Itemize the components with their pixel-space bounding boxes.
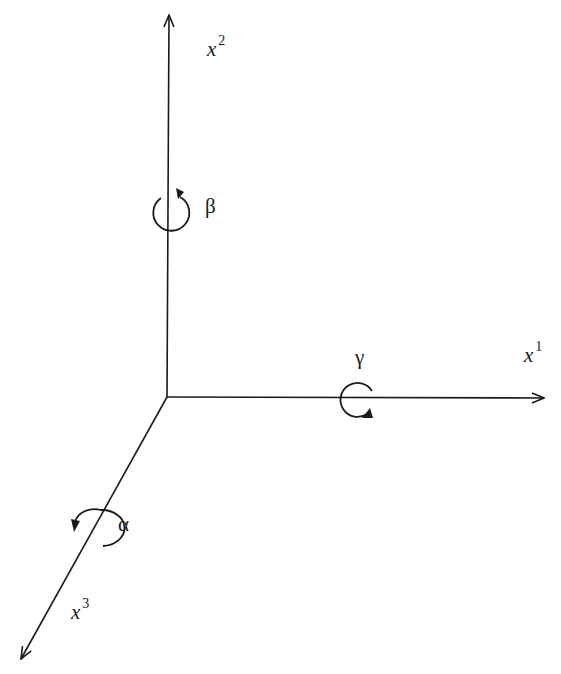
x1-label-index: 1 [535,339,542,354]
x2-axis-label: x2 [207,37,225,60]
x1-label-base: x [524,343,533,367]
gamma-rotation-icon [341,383,373,418]
beta-rotation-icon [153,188,189,231]
x3-label-index: 3 [82,596,89,611]
x3-axis-label: x3 [71,600,89,623]
x2-axis [167,15,169,397]
x1-axis [167,397,544,398]
x1-axis-label: x1 [524,343,542,366]
alpha-rotation-icon [71,509,125,546]
gamma-label: γ [355,347,364,368]
axes-diagram [0,0,561,674]
alpha-label: α [118,514,129,535]
x3-axis [21,397,167,659]
x2-label-base: x [207,37,216,61]
beta-label: β [205,196,216,217]
diagram-canvas: x2 x1 x3 β γ α [0,0,561,674]
x2-label-index: 2 [218,33,225,48]
x3-label-base: x [71,600,80,624]
